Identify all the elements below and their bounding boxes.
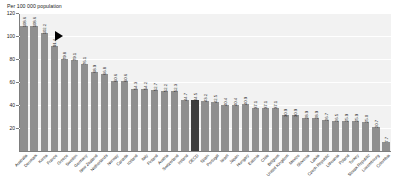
- bar[interactable]: 76.1: [81, 64, 88, 152]
- bar-rect: [91, 72, 98, 151]
- bar[interactable]: 7.7: [382, 142, 389, 151]
- bar-value-label: 26.7: [323, 113, 328, 121]
- bar-rect: [262, 108, 269, 151]
- bar[interactable]: 30.9: [282, 115, 289, 151]
- bar-value-label: 37.1: [253, 101, 258, 109]
- bar-rect: [141, 89, 148, 151]
- bar-value-label: 54.2: [142, 82, 147, 90]
- bar-value-label: 79.8: [62, 52, 67, 60]
- bar-rect: [282, 115, 289, 151]
- bar[interactable]: 44.7: [181, 100, 188, 151]
- bar[interactable]: 25.9: [352, 121, 359, 151]
- bar-value-label: 108.6: [32, 17, 37, 27]
- bar-rect: [372, 127, 379, 151]
- bar-rect: [201, 101, 208, 151]
- bar-value-label: 30.9: [293, 109, 298, 117]
- bar-rect: [191, 100, 198, 151]
- bar-value-label: 7.7: [383, 137, 388, 143]
- bar-value-label: 26.5: [333, 114, 338, 122]
- bar[interactable]: 102.2: [41, 33, 48, 151]
- bar-value-label: 30.9: [283, 109, 288, 117]
- bar[interactable]: 66.8: [101, 74, 108, 151]
- bar-value-label: 43.2: [202, 94, 207, 102]
- bar[interactable]: 20.7: [372, 127, 379, 151]
- bar[interactable]: 52.3: [171, 91, 178, 151]
- bar-rect: [232, 105, 239, 151]
- bar-rect: [121, 81, 128, 151]
- bar-value-label: 76.1: [82, 57, 87, 65]
- bar-value-label: 52.7: [152, 83, 157, 91]
- category-label: OECD: [188, 153, 200, 165]
- bar-value-label: 20.7: [373, 120, 378, 128]
- bar-chart: Per 100 000 population 20406080100120 10…: [0, 0, 396, 189]
- bar[interactable]: 52.2: [161, 91, 168, 151]
- bar-value-label: 44.5: [192, 93, 197, 101]
- bar[interactable]: 43.2: [201, 101, 208, 151]
- bar[interactable]: 42.5: [211, 102, 218, 151]
- bar[interactable]: 30.9: [292, 115, 299, 151]
- bar[interactable]: 91.4: [51, 46, 58, 151]
- bar[interactable]: 54.2: [141, 89, 148, 151]
- y-axis-tick-label: 100: [7, 33, 15, 39]
- bar-rect: [252, 108, 259, 151]
- bar-value-label: 28.9: [303, 111, 308, 119]
- bar-value-label: 108.6: [22, 17, 27, 27]
- y-axis-tick-label: 20: [9, 125, 15, 131]
- bar[interactable]: 37.1: [252, 108, 259, 151]
- bar-value-label: 25.0: [363, 115, 368, 123]
- bar[interactable]: 54.3: [131, 89, 138, 151]
- bar[interactable]: 68.9: [91, 72, 98, 151]
- bar-rect: [221, 105, 228, 151]
- bar-value-label: 40.4: [223, 98, 228, 106]
- bar-rect: [101, 74, 108, 151]
- bar[interactable]: 26.5: [332, 121, 339, 151]
- bar-value-label: 25.9: [343, 114, 348, 122]
- y-axis-tick-labels: 20406080100120: [0, 0, 17, 189]
- bar-rect: [362, 122, 369, 151]
- y-axis-tick-label: 60: [9, 79, 15, 85]
- bar-value-label: 54.3: [132, 82, 137, 90]
- bar-rect: [41, 33, 48, 151]
- bar-rect: [20, 26, 27, 151]
- bar[interactable]: 37.1: [262, 108, 269, 151]
- bar-series: 108.6108.6102.291.479.879.176.168.966.86…: [19, 13, 391, 151]
- bar-rect: [30, 26, 37, 151]
- bar-rect: [242, 104, 249, 151]
- bar-rect: [151, 90, 158, 151]
- bar-rect: [382, 142, 389, 151]
- bar[interactable]: 108.6: [20, 26, 27, 151]
- bar[interactable]: 25.9: [342, 121, 349, 151]
- bar[interactable]: 60.6: [111, 81, 118, 151]
- bar[interactable]: 52.7: [151, 90, 158, 151]
- triangle-marker-icon: [55, 31, 63, 41]
- bar-value-label: 52.3: [172, 84, 177, 92]
- bar[interactable]: 108.6: [30, 26, 37, 151]
- bar[interactable]: 26.7: [322, 120, 329, 151]
- bar[interactable]: 44.5: [191, 100, 198, 151]
- bar-rect: [211, 102, 218, 151]
- bar-value-label: 37.1: [273, 101, 278, 109]
- bar[interactable]: 28.9: [312, 118, 319, 151]
- bar[interactable]: 37.1: [272, 108, 279, 151]
- bar[interactable]: 40.4: [232, 105, 239, 151]
- bar[interactable]: 25.0: [362, 122, 369, 151]
- bar-rect: [171, 91, 178, 151]
- bar[interactable]: 28.9: [302, 118, 309, 151]
- y-axis-tick-label: 120: [7, 10, 15, 16]
- bar-rect: [81, 64, 88, 152]
- bar[interactable]: 79.8: [61, 59, 68, 151]
- y-axis-tick-label: 80: [9, 56, 15, 62]
- bar[interactable]: 60.6: [121, 81, 128, 151]
- y-axis-tick-label: 40: [9, 102, 15, 108]
- bar-value-label: 52.2: [162, 84, 167, 92]
- bar-value-label: 40.9: [243, 97, 248, 105]
- x-axis-category-labels: AustraliaDenmarkKoreaFranceGreeceSwedenG…: [19, 152, 391, 189]
- bar[interactable]: 40.4: [221, 105, 228, 151]
- bar[interactable]: 40.9: [242, 104, 249, 151]
- bar-rect: [352, 121, 359, 151]
- bar[interactable]: 79.1: [71, 60, 78, 151]
- bar-value-label: 60.6: [122, 74, 127, 82]
- bar-value-label: 37.1: [263, 101, 268, 109]
- bar-rect: [322, 120, 329, 151]
- bar-value-label: 42.5: [213, 95, 218, 103]
